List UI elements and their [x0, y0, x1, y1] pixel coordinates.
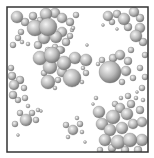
sphere-particle [80, 54, 92, 66]
sphere-particle [26, 104, 30, 108]
sphere-particle [125, 93, 131, 99]
sphere-particle [57, 13, 67, 23]
sphere-particle [116, 122, 128, 134]
sphere-particle [8, 65, 14, 71]
sphere-particle [41, 75, 55, 89]
sphere-particle [22, 95, 28, 101]
sphere-particle [142, 74, 148, 80]
sphere-particle [20, 114, 32, 126]
particle-simulation-figure [0, 0, 154, 158]
sphere-particle [106, 110, 120, 124]
sphere-particle [53, 86, 57, 90]
sphere-particle [130, 75, 136, 81]
sphere-particle [127, 100, 135, 108]
sphere-particle [99, 57, 105, 63]
sphere-particle [86, 44, 89, 47]
sphere-particle [18, 29, 24, 35]
sphere-particle [137, 117, 147, 127]
sphere-particle [62, 38, 70, 46]
sphere-particle [15, 35, 21, 41]
sphere-particle [84, 141, 87, 144]
sphere-particle [83, 70, 89, 76]
sphere-particle [96, 62, 100, 66]
sphere-particle [44, 47, 60, 63]
sphere-particle [73, 12, 79, 18]
sphere-particle [116, 28, 119, 31]
sphere-particle [8, 72, 16, 80]
sphere-particle [20, 40, 24, 44]
sphere-particle [39, 18, 57, 36]
sphere-particle [75, 116, 79, 120]
sphere-particle [9, 80, 19, 90]
sphere-particle [93, 106, 105, 118]
sphere-particle [121, 108, 133, 120]
sphere-particle [130, 30, 142, 42]
sphere-particle [141, 98, 145, 102]
sphere-particle [21, 85, 27, 91]
sphere-particle [121, 66, 131, 76]
sphere-particle [66, 135, 70, 139]
sphere-particle [29, 12, 37, 20]
sphere-particle [33, 117, 39, 123]
sphere-particle [12, 121, 18, 127]
sphere-particle [94, 96, 98, 100]
sphere-particle [103, 11, 113, 21]
sphere-particle [136, 134, 148, 146]
sphere-particle [71, 26, 75, 30]
sphere-particle [129, 7, 139, 17]
sphere-particle [128, 47, 134, 53]
sphere-particle [128, 119, 138, 129]
sphere-particle [115, 50, 125, 60]
sphere-particle [136, 91, 139, 94]
sphere-particle [99, 61, 121, 83]
sphere-particle [66, 18, 74, 26]
sphere-particle [63, 69, 81, 87]
sphere-particle [102, 24, 105, 27]
sphere-particle [137, 65, 143, 71]
sphere-particle [124, 57, 132, 65]
sphere-particle [68, 125, 78, 135]
sphere-particle [123, 133, 137, 147]
sphere-particle [17, 134, 20, 137]
sphere-particle [118, 13, 130, 25]
sphere-particle [77, 121, 83, 127]
sphere-particle [136, 106, 144, 114]
sphere-particle [55, 77, 61, 83]
sphere-particle [11, 11, 23, 23]
sphere-particle [36, 108, 40, 112]
sphere-particle [29, 110, 35, 116]
sphere-particle [139, 85, 145, 91]
sphere-particle [142, 52, 148, 58]
sphere-particle [119, 96, 123, 100]
sphere-particle [92, 103, 95, 106]
sphere-particle [111, 135, 125, 149]
sphere-particle [80, 130, 84, 134]
sphere-particle [63, 122, 69, 128]
sphere-particle [17, 110, 23, 116]
sphere-particle [119, 79, 125, 85]
sphere-particle [67, 33, 73, 39]
sphere-particle [134, 96, 138, 100]
sphere-particle [9, 91, 17, 99]
sphere-particle [26, 42, 30, 46]
sphere-particle [81, 66, 85, 70]
sphere-particle [10, 42, 16, 48]
sphere-particle [99, 134, 111, 146]
